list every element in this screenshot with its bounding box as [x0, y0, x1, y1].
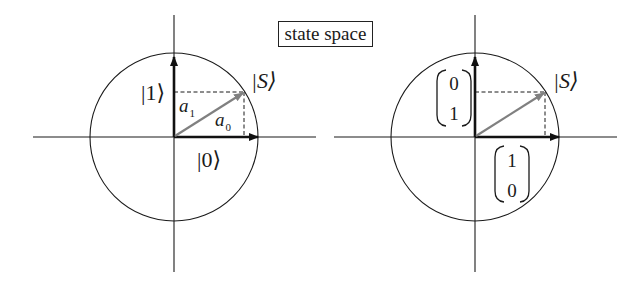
left-paren-icon	[437, 70, 446, 126]
diagram-canvas: |1⟩ |0⟩ |S⟩ a1 a0 |S⟩ 0 1 1 0	[0, 0, 644, 288]
a1-sub: 1	[190, 107, 196, 119]
vector-entry-bottom: 0	[507, 180, 517, 201]
left-basis-up-label: |1⟩	[141, 80, 165, 105]
right-state-label: |S⟩	[553, 68, 579, 93]
left-amplitude-a0: a0	[215, 109, 232, 133]
vector-entry-bottom: 1	[449, 103, 459, 124]
left-paren-icon	[495, 146, 504, 202]
left-basis-right-label: |0⟩	[197, 147, 221, 172]
a0-base: a	[215, 109, 225, 130]
right-paren-icon	[462, 70, 471, 126]
right-basis-up-column-vector: 0 1	[437, 70, 471, 126]
a1-base: a	[179, 95, 189, 116]
right-diagram: |S⟩ 0 1 1 0	[334, 15, 617, 272]
vector-entry-top: 1	[507, 150, 517, 171]
left-diagram: |1⟩ |0⟩ |S⟩ a1 a0	[33, 15, 316, 272]
right-state-vector-arrow	[476, 93, 544, 136]
left-state-label: |S⟩	[251, 68, 277, 93]
right-paren-icon	[520, 146, 529, 202]
left-amplitude-a1: a1	[179, 95, 195, 119]
vector-entry-top: 0	[449, 73, 459, 94]
a0-sub: 0	[226, 121, 232, 133]
right-basis-right-column-vector: 1 0	[495, 146, 529, 202]
